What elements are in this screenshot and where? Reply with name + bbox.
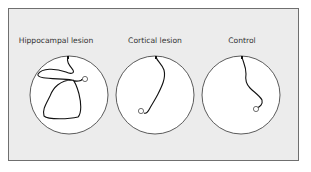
arena-cortical-lesion xyxy=(116,56,194,134)
arena-control xyxy=(202,56,280,134)
water-maze-arenas xyxy=(0,0,311,172)
start-marker xyxy=(67,56,69,59)
arena-hippocampal-lesion xyxy=(30,56,108,134)
start-marker xyxy=(241,56,243,59)
platform-icon xyxy=(82,76,87,81)
platform-icon xyxy=(138,108,143,113)
start-marker xyxy=(155,56,157,59)
platform-icon xyxy=(253,106,258,111)
